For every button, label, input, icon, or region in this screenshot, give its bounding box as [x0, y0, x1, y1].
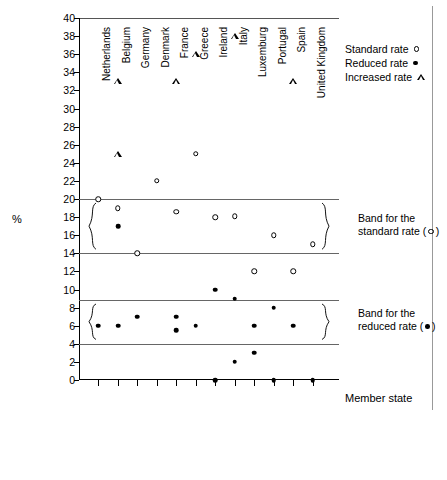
y-tick-label: 6: [69, 320, 75, 331]
y-tick-label: 26: [63, 139, 75, 150]
plot-area: 0246810121416182022242628303234363840 Ne…: [79, 18, 339, 380]
data-point: [252, 269, 258, 275]
data-point: [233, 360, 238, 365]
y-tick-label: 4: [69, 339, 75, 350]
data-point: [194, 323, 199, 328]
data-point: [193, 151, 199, 157]
data-point: [116, 323, 121, 328]
data-point: [289, 78, 297, 84]
band-annotation-standard-suffix: ): [436, 225, 440, 238]
y-tick-label: 14: [63, 248, 75, 259]
x-tick-label-spain: Spain: [297, 27, 307, 53]
y-tick-label: 22: [63, 176, 75, 187]
data-point: [252, 323, 257, 328]
band-annotation-standard-line2: standard rate ( ): [358, 225, 439, 238]
data-point: [310, 242, 316, 248]
data-point: [192, 51, 200, 57]
data-point: [271, 232, 277, 238]
data-point: [174, 209, 180, 215]
brace-standard-right: [321, 202, 330, 250]
data-point: [232, 213, 238, 219]
band-line: [79, 344, 339, 345]
band-annotation-reduced-line2: reduced rate ( ): [358, 320, 435, 333]
data-point: [116, 224, 121, 229]
x-tick-label-netherlands: Netherlands: [102, 27, 112, 81]
y-tick-label: 32: [63, 85, 75, 96]
data-point: [114, 151, 122, 157]
x-tick-label-luxemburg: Luxemburg: [258, 27, 268, 77]
open-triangle-icon: [417, 74, 425, 80]
x-tick-label-greece: Greece: [200, 27, 210, 60]
data-point: [174, 328, 179, 333]
brace-reduced-left: [88, 303, 97, 340]
band-annotation-reduced-text: reduced rate (: [358, 320, 423, 333]
x-tick-label-ireland: Ireland: [219, 27, 229, 58]
data-point: [233, 296, 238, 301]
band-annotation-standard-line1: Band for the: [358, 212, 439, 225]
legend-label-increased-rate: Increased rate: [345, 70, 412, 84]
y-tick-label: 12: [63, 266, 75, 277]
x-tick: [137, 380, 138, 386]
x-tick: [254, 380, 255, 386]
y-tick-label: 8: [69, 302, 75, 313]
y-tick-label: 36: [63, 49, 75, 60]
legend-label-standard-rate: Standard rate: [345, 42, 409, 56]
x-tick-label-united-kingdom: United Kingdom: [317, 27, 327, 98]
data-point: [213, 214, 219, 220]
y-tick-label: 18: [63, 212, 75, 223]
y-tick-label: 38: [63, 31, 75, 42]
y-tick-label: 24: [63, 158, 75, 169]
x-tick: [98, 380, 99, 386]
open-circle-icon: [428, 229, 434, 235]
data-point: [310, 378, 315, 383]
data-point: [231, 33, 239, 39]
x-tick: [157, 380, 158, 386]
legend: Standard rate Reduced rate Increased rat…: [345, 42, 425, 84]
y-tick-label: 2: [69, 357, 75, 368]
plot-top-border: [79, 18, 339, 19]
x-tick: [196, 380, 197, 386]
x-tick-label-france: France: [180, 27, 190, 58]
x-tick: [176, 380, 177, 386]
legend-item-increased-rate: Increased rate: [345, 70, 425, 84]
y-tick-label: 20: [63, 194, 75, 205]
y-tick-label: 40: [63, 13, 75, 24]
x-tick-label-portugal: Portugal: [278, 27, 288, 64]
data-point: [135, 251, 141, 257]
legend-item-reduced-rate: Reduced rate: [345, 56, 425, 70]
y-tick-label: 0: [69, 375, 75, 386]
data-point: [154, 178, 160, 184]
x-axis-title: Member state: [345, 392, 412, 404]
y-tick-label: 28: [63, 121, 75, 132]
x-tick-label-germany: Germany: [141, 27, 151, 68]
y-tick-label: 16: [63, 230, 75, 241]
data-point: [96, 196, 102, 202]
data-point: [115, 205, 121, 211]
data-point: [172, 78, 180, 84]
brace-reduced-right: [321, 303, 330, 340]
x-tick: [118, 380, 119, 386]
filled-circle-icon: [413, 61, 418, 66]
band-annotation-reduced-line1: Band for the: [358, 307, 435, 320]
x-tick-label-italy: Italy: [239, 27, 249, 45]
band-annotation-standard: Band for the standard rate ( ): [358, 212, 439, 238]
legend-label-reduced-rate: Reduced rate: [345, 56, 408, 70]
y-axis-title: %: [12, 213, 22, 225]
x-tick: [235, 380, 236, 386]
y-tick-label: 10: [63, 284, 75, 295]
figure-right-rule: [432, 6, 433, 410]
data-point: [213, 287, 218, 292]
data-point: [213, 378, 218, 383]
data-point: [271, 378, 276, 383]
filled-circle-icon: [425, 324, 430, 329]
data-point: [291, 323, 296, 328]
band-annotation-reduced: Band for the reduced rate ( ): [358, 307, 435, 333]
data-point: [252, 351, 257, 356]
data-point: [290, 269, 296, 275]
band-annotation-reduced-suffix: ): [432, 320, 436, 333]
x-tick-label-belgium: Belgium: [122, 27, 132, 63]
y-tick-label: 30: [63, 103, 75, 114]
data-point: [271, 305, 276, 310]
legend-item-standard-rate: Standard rate: [345, 42, 425, 56]
band-line: [79, 300, 339, 301]
